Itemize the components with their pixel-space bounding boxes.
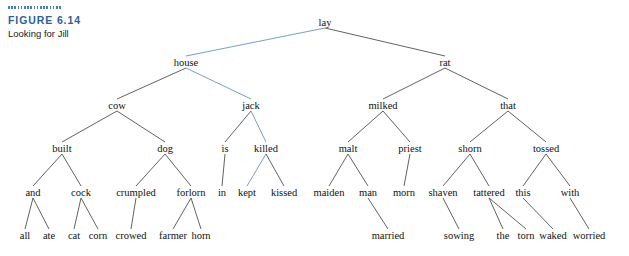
tree-edge <box>508 111 546 142</box>
tree-edge <box>62 111 117 142</box>
tree-node-malt: malt <box>339 143 358 154</box>
tree-edge <box>165 154 191 186</box>
tree-edge <box>247 154 266 186</box>
tree-node-rat: rat <box>439 57 450 68</box>
tree-edge <box>443 154 470 186</box>
tree-node-tossed: tossed <box>533 143 559 154</box>
tree-edge <box>136 154 165 186</box>
tree-edge <box>445 68 508 99</box>
tree-node-milked: milked <box>368 100 397 111</box>
tree-edge <box>570 198 589 229</box>
tree-node-forlorn: forlorn <box>176 187 205 198</box>
tree-edge <box>251 111 266 142</box>
tree-node-married: married <box>372 230 405 241</box>
tree-edge <box>117 111 165 142</box>
tree-node-maiden: maiden <box>314 187 345 198</box>
tree-edge <box>489 198 526 229</box>
tree-edge <box>222 154 225 186</box>
tree-edge <box>191 198 201 229</box>
tree-node-ate: ate <box>43 230 55 241</box>
figure-container: FIGURE 6.14 Looking for Jill layhouserat… <box>0 0 629 256</box>
tree-edge <box>523 198 553 229</box>
tree-edge <box>329 154 348 186</box>
tree-edge <box>117 68 186 99</box>
tree-edge <box>325 28 445 56</box>
tree-node-the: the <box>497 230 510 241</box>
tree-edge <box>368 198 388 229</box>
tree-edge <box>470 154 489 186</box>
tree-node-dog: dog <box>157 143 173 154</box>
tree-node-in: in <box>218 187 226 198</box>
tree-node-corn: corn <box>89 230 108 241</box>
tree-node-lay: lay <box>319 17 332 28</box>
tree-node-priest: priest <box>398 143 421 154</box>
tree-edge <box>33 154 62 186</box>
tree-node-worried: worried <box>573 230 606 241</box>
tree-node-crowed: crowed <box>116 230 147 241</box>
tree-edge <box>33 198 49 229</box>
tree-edge <box>62 154 81 186</box>
tree-edge <box>186 68 251 99</box>
tree-edge <box>173 198 191 229</box>
tree-node-man: man <box>359 187 377 198</box>
tree-edges-layer <box>0 0 629 256</box>
tree-edge <box>74 198 81 229</box>
tree-node-all: all <box>20 230 31 241</box>
tree-edge <box>383 111 410 142</box>
tree-edge <box>383 68 445 99</box>
tree-node-that: that <box>500 100 516 111</box>
tree-node-waked: waked <box>539 230 566 241</box>
tree-node-with: with <box>561 187 580 198</box>
tree-node-built: built <box>52 143 71 154</box>
tree-edge <box>348 154 368 186</box>
tree-edge <box>186 28 325 56</box>
tree-node-farmer: farmer <box>159 230 187 241</box>
tree-node-tattered: tattered <box>473 187 504 198</box>
tree-edge <box>489 198 503 229</box>
tree-edge <box>225 111 251 142</box>
tree-edge <box>546 154 570 186</box>
tree-node-and: and <box>25 187 40 198</box>
tree-node-killed: killed <box>254 143 278 154</box>
tree-node-kept: kept <box>238 187 256 198</box>
tree-node-morn: morn <box>393 187 415 198</box>
tree-node-horn: horn <box>191 230 210 241</box>
tree-node-shaven: shaven <box>428 187 457 198</box>
tree-edge <box>470 111 508 142</box>
tree-node-crumpled: crumpled <box>116 187 156 198</box>
tree-node-sowing: sowing <box>444 230 474 241</box>
tree-node-torn: torn <box>518 230 535 241</box>
tree-edge <box>266 154 284 186</box>
tree-edge <box>81 198 98 229</box>
tree-edge <box>25 198 33 229</box>
tree-edge <box>131 198 136 229</box>
tree-edge <box>348 111 383 142</box>
tree-node-kissed: kissed <box>271 187 297 198</box>
tree-node-is: is <box>221 143 228 154</box>
tree-node-this: this <box>515 187 530 198</box>
tree-node-cow: cow <box>108 100 126 111</box>
tree-node-shorn: shorn <box>458 143 481 154</box>
tree-node-cat: cat <box>68 230 80 241</box>
tree-node-house: house <box>174 57 199 68</box>
tree-edge <box>523 154 546 186</box>
tree-edge <box>404 154 410 186</box>
tree-edge <box>443 198 459 229</box>
tree-node-jack: jack <box>242 100 260 111</box>
tree-node-cock: cock <box>71 187 91 198</box>
